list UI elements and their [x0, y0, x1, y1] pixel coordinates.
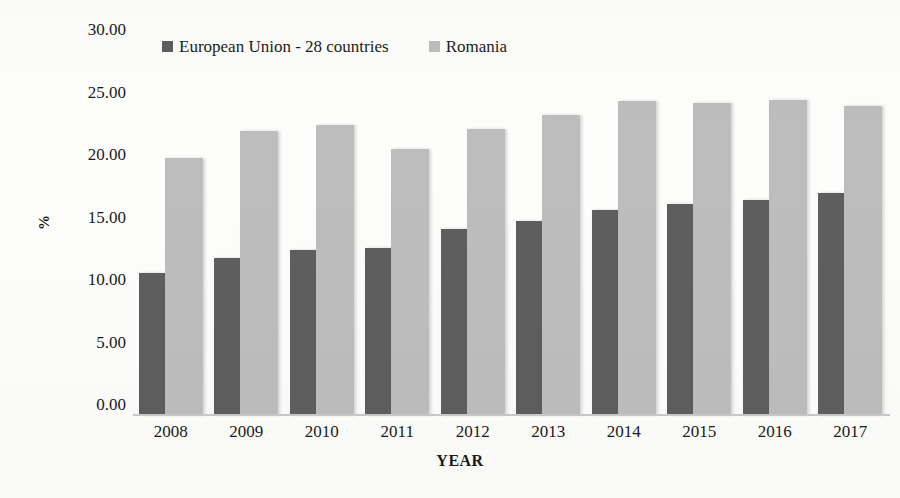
bar-group	[435, 40, 511, 415]
y-axis-tick-label: 15.00	[56, 208, 126, 228]
bar-romania	[391, 149, 429, 415]
y-axis-tick-labels: 0.005.0010.0015.0020.0025.0030.00	[56, 30, 126, 426]
bar-romania	[467, 129, 505, 415]
x-axis-tick-label: 2013	[511, 420, 587, 444]
x-axis-tick-labels: 2008200920102011201220132014201520162017	[133, 420, 888, 444]
bar-european-union	[516, 221, 542, 415]
bar-european-union	[743, 200, 769, 415]
y-axis-tick-label: 0.00	[56, 395, 126, 415]
x-axis-title: YEAR	[0, 452, 900, 470]
bar-group	[209, 40, 285, 415]
x-axis-tick-label: 2008	[133, 420, 209, 444]
bar-romania	[240, 131, 278, 415]
bar-european-union	[365, 248, 391, 416]
bar-group	[511, 40, 587, 415]
x-axis-tick-label: 2009	[209, 420, 285, 444]
bar-chart: European Union - 28 countries Romania % …	[0, 0, 900, 498]
y-axis-tick-label: 20.00	[56, 145, 126, 165]
bar-group	[360, 40, 436, 415]
bar-group	[586, 40, 662, 415]
bar-group	[284, 40, 360, 415]
x-axis-tick-label: 2012	[435, 420, 511, 444]
y-axis-title: %	[36, 209, 53, 237]
bar-romania	[693, 103, 731, 416]
bar-group	[813, 40, 889, 415]
bar-romania	[844, 106, 882, 415]
bar-group	[662, 40, 738, 415]
bar-european-union	[818, 193, 844, 416]
x-axis-tick-label: 2011	[360, 420, 436, 444]
bar-romania	[165, 158, 203, 416]
bar-groups	[133, 40, 888, 415]
bar-group	[133, 40, 209, 415]
x-axis-tick-label: 2015	[662, 420, 738, 444]
bar-group	[737, 40, 813, 415]
x-axis-tick-label: 2010	[284, 420, 360, 444]
y-axis-tick-label: 10.00	[56, 270, 126, 290]
bar-romania	[316, 125, 354, 415]
y-axis-tick-label: 25.00	[56, 83, 126, 103]
bar-european-union	[139, 273, 165, 416]
x-axis-tick-label: 2014	[586, 420, 662, 444]
x-axis-line	[133, 414, 890, 416]
y-axis-tick-label: 30.00	[56, 20, 126, 40]
y-axis-tick-label: 5.00	[56, 333, 126, 353]
bar-european-union	[290, 250, 316, 415]
bar-romania	[769, 100, 807, 415]
bar-european-union	[441, 229, 467, 415]
bar-european-union	[214, 258, 240, 416]
bar-romania	[618, 101, 656, 415]
plot-area	[133, 40, 888, 415]
bar-european-union	[592, 210, 618, 415]
x-axis-tick-label: 2017	[813, 420, 889, 444]
bar-european-union	[667, 204, 693, 415]
bar-romania	[542, 115, 580, 415]
x-axis-tick-label: 2016	[737, 420, 813, 444]
